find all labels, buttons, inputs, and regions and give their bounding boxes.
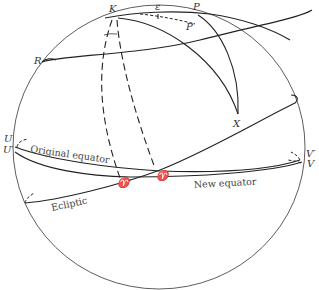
arrow-V-1	[291, 152, 300, 160]
label-V: V	[307, 158, 316, 169]
label-K: K	[108, 3, 117, 14]
label-R: R	[33, 55, 42, 66]
angle-mark-K	[104, 34, 117, 35]
label-new-equator: New equator	[194, 176, 258, 190]
arrow-ecliptic-left	[25, 193, 34, 203]
circle-R-arc	[42, 10, 312, 62]
label-original-equator: Original equator	[30, 143, 111, 165]
label-X: X	[232, 118, 241, 129]
celestial-sphere-diagram: K ε P P′ R X U U′ V′ V ♈ ♈′ Original equ…	[0, 0, 319, 290]
label-vernal-equinox-prime: ♈′	[117, 176, 132, 189]
arrow-U	[17, 139, 28, 147]
arc-K-top	[105, 12, 290, 40]
label-U-prime: U′	[3, 144, 14, 155]
label-P: P	[192, 1, 200, 12]
label-epsilon: ε	[155, 1, 160, 12]
arc-K-X	[118, 18, 238, 114]
label-U: U	[4, 133, 13, 144]
label-P-prime: P′	[185, 21, 196, 32]
label-ecliptic: Ecliptic	[50, 195, 88, 213]
dashed-meridian-2	[117, 20, 155, 168]
